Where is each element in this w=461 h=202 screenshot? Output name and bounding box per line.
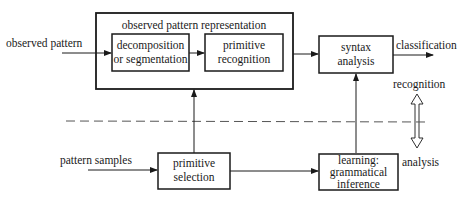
primitive-recognition-label-line1: primitive [223,39,265,52]
syntax-analysis-label-line1: syntax [341,41,371,54]
primitive-recognition-label-line2: recognition [218,53,271,66]
pattern-samples-label: pattern samples [60,154,132,167]
recognition-label: recognition [393,78,446,91]
observed-pattern-label: observed pattern [6,37,83,50]
syntax-analysis-label-line2: analysis [337,55,375,68]
primitive-selection-label-line1: primitive [173,157,215,170]
diagram-canvas: observed pattern observed pattern repres… [0,0,461,202]
learning-label-line3: inference [337,178,380,190]
observed-pattern-representation-label: observed pattern representation [122,19,267,32]
recognition-analysis-double-arrow [411,94,423,148]
analysis-label: analysis [402,156,440,169]
classification-label: classification [396,39,457,51]
primitive-selection-label-line2: selection [174,171,215,183]
recognition-analysis-separator [66,121,430,122]
decomposition-label-line2: or segmentation [114,53,188,66]
decomposition-label-line1: decomposition [117,39,185,52]
